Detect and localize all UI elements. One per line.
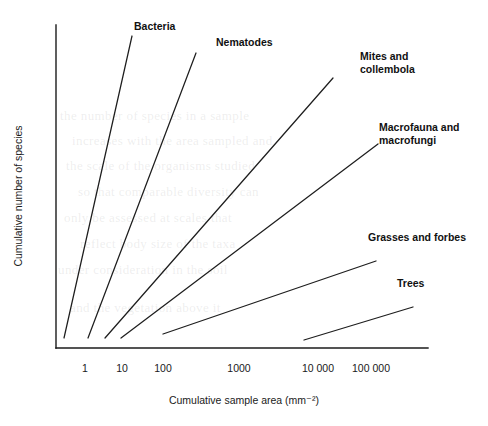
series-label-mites-and-collembola-line2: collembola xyxy=(360,63,415,75)
x-tick-label-1: 1 xyxy=(82,362,88,374)
series-label-macrofauna-and-macrofungi-line1: Macrofauna and xyxy=(379,121,460,133)
x-tick-label-1000: 1000 xyxy=(227,362,251,374)
series-label-bacteria: Bacteria xyxy=(134,20,176,32)
series-label-macrofauna-and-macrofungi-line2: macrofungi xyxy=(379,134,436,146)
series-line-bacteria xyxy=(64,36,132,338)
series-line-grasses-and-forbes xyxy=(163,261,376,334)
series-label-nematodes: Nematodes xyxy=(216,36,273,48)
x-tick-label-100: 100 xyxy=(154,362,172,374)
series-line-mites-and-collembola xyxy=(105,78,333,338)
series-line-trees xyxy=(304,307,413,340)
species-accumulation-chart: Bacteria Nematodes Mites and collembola … xyxy=(0,0,488,426)
series-label-mites-and-collembola-line1: Mites and xyxy=(360,50,408,62)
figure-container: the number of species in a sample increa… xyxy=(0,0,488,426)
x-tick-label-100000: 100 000 xyxy=(352,362,390,374)
series-label-grasses-and-forbes: Grasses and forbes xyxy=(368,231,466,243)
x-tick-label-10000: 10 000 xyxy=(302,362,334,374)
series-label-trees: Trees xyxy=(397,277,425,289)
x-axis-title: Cumulative sample area (mm⁻²) xyxy=(169,394,319,406)
x-tick-label-10: 10 xyxy=(116,362,128,374)
y-axis-title: Cumulative number of species xyxy=(12,125,24,266)
